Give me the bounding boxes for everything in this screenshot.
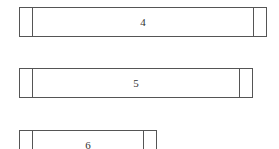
left-pointer-cell bbox=[20, 69, 33, 97]
right-pointer-cell bbox=[143, 131, 156, 149]
right-pointer-cell bbox=[239, 69, 252, 97]
right-pointer-cell bbox=[253, 8, 266, 36]
left-pointer-cell bbox=[20, 8, 33, 36]
node-5: 5 bbox=[19, 68, 253, 98]
node-4: 4 bbox=[19, 7, 267, 37]
node-key: 6 bbox=[33, 131, 143, 149]
node-6: 6 bbox=[19, 130, 157, 149]
left-pointer-cell bbox=[20, 131, 33, 149]
node-key: 5 bbox=[33, 69, 239, 97]
node-key: 4 bbox=[33, 8, 253, 36]
